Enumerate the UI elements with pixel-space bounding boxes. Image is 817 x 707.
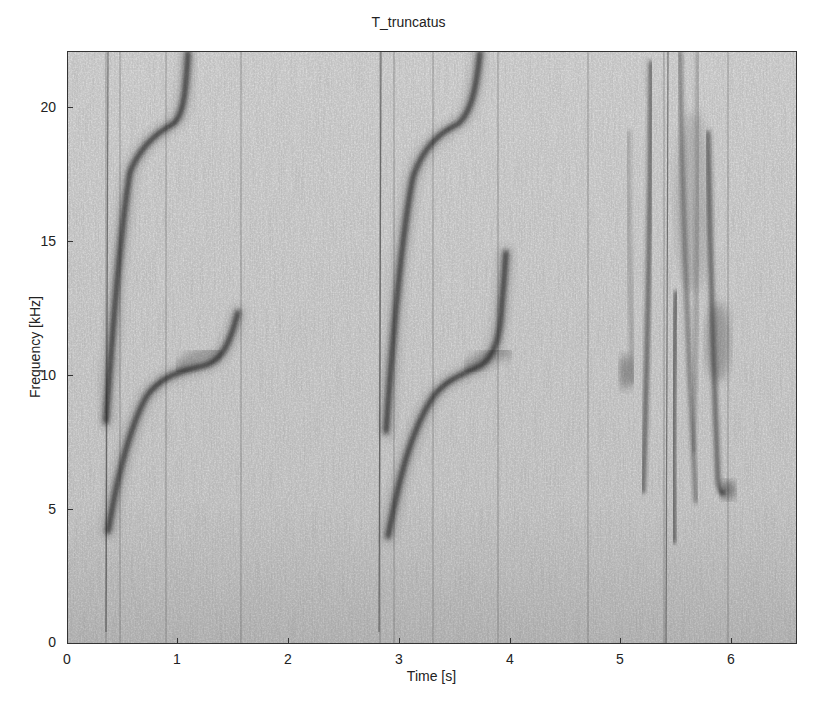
xtick-mark-5 <box>620 638 621 644</box>
ytick-mark-15 <box>67 241 73 242</box>
y-axis-label: Frequency [kHz] <box>27 296 43 398</box>
xtick-label: 4 <box>495 651 525 667</box>
ytick-mark-10 <box>67 375 73 376</box>
xtick-mark-6 <box>731 638 732 644</box>
xtick-mark-2 <box>288 638 289 644</box>
ytick-label: 5 <box>16 501 56 517</box>
x-axis-label: Time [s] <box>0 668 817 684</box>
ytick-mark-20 <box>67 107 73 108</box>
xtick-label: 1 <box>162 651 192 667</box>
ytick-mark-5 <box>67 509 73 510</box>
ytick-label: 0 <box>16 634 56 650</box>
spectrogram-canvas <box>68 52 797 644</box>
xtick-label: 5 <box>605 651 635 667</box>
xtick-label: 2 <box>273 651 303 667</box>
xtick-label: 6 <box>716 651 746 667</box>
xtick-label: 3 <box>384 651 414 667</box>
xtick-label: 0 <box>52 651 82 667</box>
spectrogram-plot <box>67 51 797 644</box>
chart-title: T_truncatus <box>0 14 817 30</box>
xtick-mark-4 <box>510 638 511 644</box>
ytick-label: 20 <box>16 99 56 115</box>
xtick-mark-1 <box>177 638 178 644</box>
ytick-label: 15 <box>16 233 56 249</box>
xtick-mark-3 <box>399 638 400 644</box>
